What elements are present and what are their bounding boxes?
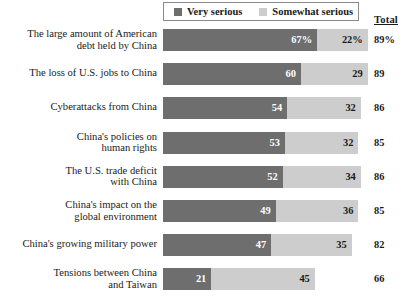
row-category-label-line: Tensions between China <box>3 267 157 279</box>
bar-value-very-serious: 60 <box>286 68 296 80</box>
bar-value-somewhat-serious: 34 <box>345 171 355 183</box>
row-bar-track: 4735 <box>163 234 352 256</box>
bar-segment-somewhat-serious: 45 <box>211 268 315 290</box>
bar-value-somewhat-serious: 32 <box>343 137 353 149</box>
bar-segment-somewhat-serious: 32 <box>287 97 361 119</box>
row-category-label-line: and Taiwan <box>3 279 157 291</box>
row-total-value: 85 <box>374 205 384 216</box>
total-column-header: Total <box>374 14 398 25</box>
row-total-value: 66 <box>374 273 384 284</box>
chart-row: Tensions between Chinaand Taiwan214566 <box>0 268 407 290</box>
row-category-label: China's policies onhuman rights <box>3 131 163 154</box>
row-category-label: The U.S. trade deficitwith China <box>3 165 163 188</box>
legend-item-somewhat-serious: Somewhat serious <box>259 6 353 17</box>
bar-segment-somewhat-serious: 36 <box>276 200 359 222</box>
row-category-label: Tensions between Chinaand Taiwan <box>3 267 163 290</box>
row-category-label-line: The U.S. trade deficit <box>3 165 157 177</box>
row-category-label-line: Cyberattacks from China <box>3 101 157 113</box>
bar-segment-very-serious: 67% <box>163 29 317 51</box>
bar-segment-somewhat-serious: 35 <box>271 234 352 256</box>
bar-segment-very-serious: 60 <box>163 63 301 85</box>
chart-row: Cyberattacks from China543286 <box>0 97 407 119</box>
bar-value-very-serious: 47 <box>256 239 266 251</box>
bar-segment-very-serious: 21 <box>163 268 211 290</box>
row-bar-track: 5332 <box>163 132 359 154</box>
chart-row: China's policies onhuman rights533285 <box>0 132 407 154</box>
chart-row: The U.S. trade deficitwith China523486 <box>0 166 407 188</box>
bar-segment-somewhat-serious: 22% <box>317 29 368 51</box>
bar-value-somewhat-serious: 29 <box>352 68 362 80</box>
row-bar-track: 5234 <box>163 166 361 188</box>
chart-row: The loss of U.S. jobs to China602989 <box>0 63 407 85</box>
row-total-value: 82 <box>374 239 384 250</box>
legend-label-somewhat-serious: Somewhat serious <box>272 6 353 17</box>
chart-row: China's growing military power473582 <box>0 234 407 256</box>
bar-value-somewhat-serious: 32 <box>345 102 355 114</box>
row-category-label-line: global environment <box>3 211 157 223</box>
row-category-label: China's impact on theglobal environment <box>3 199 163 222</box>
row-bar-track: 6029 <box>163 63 368 85</box>
bar-segment-very-serious: 52 <box>163 166 283 188</box>
bar-value-somewhat-serious: 45 <box>299 273 309 285</box>
row-category-label-line: The large amount of American <box>3 28 157 40</box>
row-category-label-line: human rights <box>3 142 157 154</box>
row-total-value: 89 <box>374 68 384 79</box>
row-category-label-line: China's policies on <box>3 131 157 143</box>
bar-segment-very-serious: 54 <box>163 97 287 119</box>
row-total-value: 89% <box>374 34 395 45</box>
bar-value-very-serious: 53 <box>270 137 280 149</box>
row-category-label: The large amount of Americandebt held by… <box>3 28 163 51</box>
row-category-label-line: debt held by China <box>3 40 157 52</box>
bar-value-somewhat-serious: 22% <box>342 34 363 46</box>
bar-segment-somewhat-serious: 32 <box>285 132 359 154</box>
legend-label-very-serious: Very serious <box>187 6 242 17</box>
row-bar-track: 4936 <box>163 200 359 222</box>
row-total-value: 86 <box>374 102 384 113</box>
bar-segment-somewhat-serious: 34 <box>283 166 361 188</box>
bar-segment-very-serious: 53 <box>163 132 285 154</box>
legend-swatch-icon-very-serious <box>174 8 182 16</box>
legend-item-very-serious: Very serious <box>174 6 242 17</box>
row-category-label-line: The loss of U.S. jobs to China <box>3 67 157 79</box>
row-category-label: The loss of U.S. jobs to China <box>3 67 163 79</box>
row-total-value: 86 <box>374 171 384 182</box>
row-total-value: 85 <box>374 137 384 148</box>
bar-value-very-serious: 52 <box>267 171 277 183</box>
legend-swatch-icon-somewhat-serious <box>259 8 267 16</box>
bar-segment-somewhat-serious: 29 <box>301 63 368 85</box>
row-category-label: China's growing military power <box>3 238 163 250</box>
chart-row: China's impact on theglobal environment4… <box>0 200 407 222</box>
stacked-bar-chart: Very serious Somewhat serious Total The … <box>0 0 407 305</box>
row-bar-track: 67%22% <box>163 29 368 51</box>
row-category-label-line: with China <box>3 176 157 188</box>
bar-value-somewhat-serious: 36 <box>343 205 353 217</box>
row-bar-track: 2145 <box>163 268 315 290</box>
row-category-label: Cyberattacks from China <box>3 101 163 113</box>
row-bar-track: 5432 <box>163 97 361 119</box>
bar-value-very-serious: 67% <box>291 34 312 46</box>
bar-value-very-serious: 21 <box>196 273 206 285</box>
row-category-label-line: China's growing military power <box>3 238 157 250</box>
chart-row: The large amount of Americandebt held by… <box>0 29 407 51</box>
bar-value-very-serious: 54 <box>272 102 282 114</box>
bar-segment-very-serious: 49 <box>163 200 276 222</box>
bar-value-somewhat-serious: 35 <box>336 239 346 251</box>
row-category-label-line: China's impact on the <box>3 199 157 211</box>
chart-legend: Very serious Somewhat serious <box>163 2 359 21</box>
bar-value-very-serious: 49 <box>260 205 270 217</box>
bar-segment-very-serious: 47 <box>163 234 271 256</box>
